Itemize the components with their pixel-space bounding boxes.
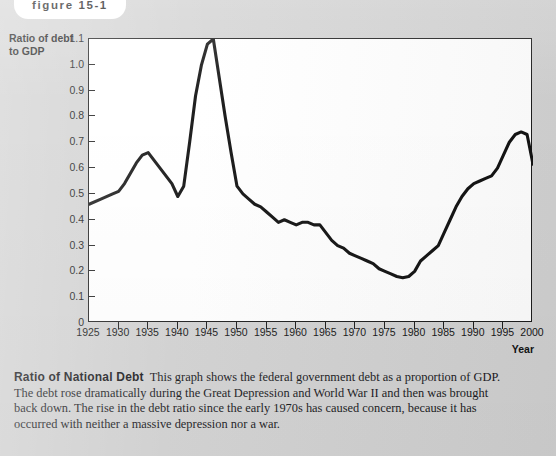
y-tick-mark bbox=[88, 219, 95, 220]
y-tick-mark bbox=[88, 115, 95, 116]
x-tick-mark bbox=[147, 322, 148, 329]
figure-number-label: figure 15-1 bbox=[14, 0, 126, 11]
y-tick-mark bbox=[88, 193, 95, 194]
x-axis-title: Year bbox=[512, 343, 534, 355]
x-tick-mark bbox=[443, 322, 444, 329]
x-tick-mark bbox=[266, 322, 267, 329]
y-tick-label: 1.1 bbox=[56, 32, 84, 44]
y-tick-label: 0.9 bbox=[56, 84, 84, 96]
figure-caption-lead: Ratio of National Debt bbox=[14, 370, 144, 384]
x-tick-mark bbox=[414, 322, 415, 329]
x-tick-mark bbox=[206, 322, 207, 329]
x-tick-mark bbox=[502, 322, 503, 329]
x-tick-mark bbox=[295, 322, 296, 329]
x-axis-tick-labels: 1925193019351940194519501955196019651970… bbox=[88, 326, 532, 342]
debt-ratio-line-chart bbox=[89, 39, 533, 323]
x-tick-mark bbox=[354, 322, 355, 329]
figure-page: figure 15-1 Ratio of debt to GDP 00.10.2… bbox=[0, 0, 556, 456]
y-tick-label: 0.6 bbox=[56, 161, 84, 173]
x-tick-mark bbox=[177, 322, 178, 329]
y-tick-mark bbox=[88, 141, 95, 142]
x-tick-mark bbox=[473, 322, 474, 329]
y-tick-label: 0.1 bbox=[56, 290, 84, 302]
y-tick-mark bbox=[88, 90, 95, 91]
y-tick-mark bbox=[88, 64, 95, 65]
y-tick-mark bbox=[88, 38, 95, 39]
y-tick-label: 1.0 bbox=[56, 58, 84, 70]
y-tick-label: 0.7 bbox=[56, 135, 84, 147]
x-tick-mark bbox=[384, 322, 385, 329]
x-tick-mark bbox=[236, 322, 237, 329]
y-tick-label: 0.2 bbox=[56, 264, 84, 276]
y-tick-label: 0.5 bbox=[56, 187, 84, 199]
x-tick-label: 2000 bbox=[512, 326, 552, 338]
y-tick-mark bbox=[88, 167, 95, 168]
y-tick-label: 0.3 bbox=[56, 239, 84, 251]
figure-caption: Ratio of National Debt This graph shows … bbox=[14, 370, 514, 432]
y-tick-mark bbox=[88, 296, 95, 297]
x-tick-mark bbox=[325, 322, 326, 329]
y-axis-tick-labels: 00.10.20.30.40.50.60.70.80.91.01.1 bbox=[50, 38, 84, 322]
x-tick-mark bbox=[118, 322, 119, 329]
y-tick-label: 0.8 bbox=[56, 109, 84, 121]
y-tick-label: 0.4 bbox=[56, 213, 84, 225]
y-tick-mark bbox=[88, 245, 95, 246]
plot-area bbox=[88, 38, 532, 322]
y-tick-mark bbox=[88, 270, 95, 271]
figure-number-tab: figure 15-1 bbox=[14, 0, 126, 19]
debt-ratio-line-path bbox=[89, 39, 533, 278]
